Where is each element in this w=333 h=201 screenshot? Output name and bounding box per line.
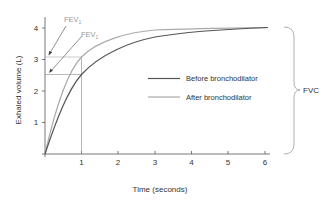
- fev1-arrow-before: [49, 36, 82, 73]
- fev1-label-before: FEV1: [81, 30, 99, 40]
- x-axis-title: Time (seconds): [133, 185, 188, 194]
- x-tick-label: 4: [189, 158, 194, 167]
- fvc-label: FVC: [303, 86, 319, 95]
- spirometry-chart: 1 2 3 4 1 2 3 4 5 6 Time (seconds) Exhal…: [0, 0, 333, 201]
- y-axis-title: Exhaled volume (L): [14, 55, 23, 124]
- x-tick-label: 6: [263, 158, 268, 167]
- fev1-arrow-after: [49, 26, 67, 56]
- y-tick-label: 1: [34, 118, 39, 127]
- y-tick-label: 2: [34, 87, 39, 96]
- fev1-label-after: FEV1: [64, 15, 82, 25]
- legend-label-before: Before bronchodilator: [186, 74, 258, 83]
- legend: Before bronchodilator After bronchodilat…: [148, 74, 258, 102]
- y-tick-label: 4: [34, 24, 39, 33]
- y-tick-label: 3: [34, 55, 39, 64]
- after-bronchodilator-curve: [45, 28, 268, 155]
- x-tick-label: 3: [153, 158, 158, 167]
- x-tick-label: 5: [226, 158, 231, 167]
- x-tick-label: 2: [116, 158, 121, 167]
- fvc-brace: [284, 27, 300, 154]
- before-bronchodilator-curve: [45, 28, 268, 155]
- x-tick-label: 1: [79, 158, 84, 167]
- y-ticks: [42, 28, 45, 123]
- legend-label-after: After bronchodilator: [186, 93, 252, 102]
- x-ticks: [82, 151, 266, 154]
